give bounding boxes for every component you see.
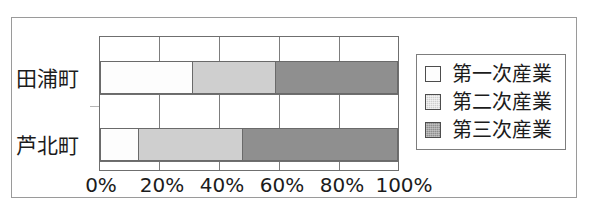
legend-label-primary: 第一次産業: [452, 64, 552, 84]
legend-label-secondary: 第二次産業: [452, 92, 552, 112]
legend-item-primary[interactable]: 第一次産業: [425, 60, 558, 88]
xtick-text-0: 0%: [85, 173, 117, 197]
bar-ashikita[interactable]: [100, 128, 398, 161]
bar-segment-taura-tertiary[interactable]: [275, 61, 398, 94]
bar-segment-taura-primary[interactable]: [100, 61, 193, 94]
row-separator-2: [100, 94, 398, 95]
xtick-label-0: 0%: [85, 173, 117, 197]
xtick-text-100: 100%: [375, 173, 432, 197]
plot-area: [99, 36, 399, 171]
bar-taura[interactable]: [100, 61, 398, 94]
xtick-label-60: 60%: [260, 173, 304, 197]
chart-legend: 第一次産業 第二次産業 第三次産業: [416, 54, 566, 150]
bar-segment-ashikita-secondary[interactable]: [138, 128, 243, 161]
category-label-taura: 田浦町: [16, 62, 100, 92]
xtick-label-80: 80%: [320, 173, 364, 197]
chart-figure-frame: 田浦町 芦北町 0% 20%: [11, 17, 577, 198]
light-gray-square-swatch-icon: [425, 94, 441, 110]
legend-item-tertiary[interactable]: 第三次産業: [425, 116, 558, 144]
white-square-swatch-icon: [425, 66, 441, 82]
category-label-ashikita: 芦北町: [16, 129, 100, 159]
bar-segment-taura-secondary[interactable]: [192, 61, 276, 94]
xtick-label-40: 40%: [200, 173, 244, 197]
category-label-taura-text: 田浦町: [16, 67, 79, 91]
bar-segment-ashikita-tertiary[interactable]: [242, 128, 398, 161]
xtick-text-80: 80%: [320, 173, 364, 197]
dark-gray-square-swatch-icon: [425, 122, 441, 138]
xtick-text-20: 20%: [140, 173, 184, 197]
row-separator-4: [100, 161, 398, 162]
xtick-text-60: 60%: [260, 173, 304, 197]
xtick-text-40: 40%: [200, 173, 244, 197]
xtick-label-20: 20%: [140, 173, 184, 197]
legend-item-secondary[interactable]: 第二次産業: [425, 88, 558, 116]
category-label-ashikita-text: 芦北町: [16, 134, 79, 158]
bar-segment-ashikita-primary[interactable]: [100, 128, 139, 161]
legend-label-tertiary: 第三次産業: [452, 120, 552, 140]
stray-tick-mark: [90, 106, 99, 107]
xtick-label-100: 100%: [375, 173, 432, 197]
